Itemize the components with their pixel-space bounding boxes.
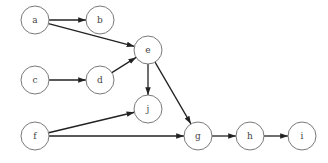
node-label: a [32,15,38,25]
node-b: b [86,6,114,34]
edges [49,20,288,136]
node-a: a [21,6,49,34]
node-label: d [97,75,103,85]
node-i: i [288,122,316,150]
edge-d-e [112,57,136,72]
edge-f-j [49,112,135,132]
node-label: j [146,104,150,114]
node-label: c [32,75,37,85]
node-label: e [145,45,150,55]
node-label: g [195,131,201,141]
node-c: c [21,66,49,94]
node-label: i [301,131,304,141]
node-f: f [21,122,49,150]
directed-graph: abcdejfghi [0,0,328,163]
node-h: h [236,122,264,150]
node-label: b [97,15,103,25]
graph-canvas: abcdejfghi [0,0,328,163]
node-e: e [134,36,162,64]
node-j: j [134,95,162,123]
node-label: h [247,131,253,141]
node-g: g [184,122,212,150]
node-d: d [86,66,114,94]
